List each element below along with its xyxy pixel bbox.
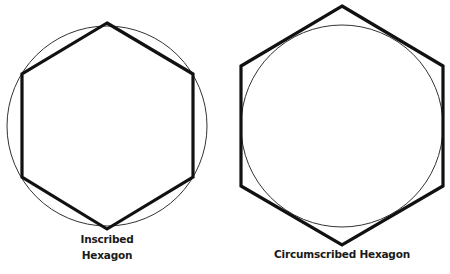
circumscribed-figure <box>241 6 443 245</box>
inscribed-label: Inscribed Hexagon <box>57 231 157 263</box>
circumscribed-label: Circumscribed Hexagon <box>262 246 422 262</box>
inscribed-circle <box>7 26 207 226</box>
circumscribed-hexagon <box>241 6 443 245</box>
circumscribed-label-line-1: Circumscribed Hexagon <box>262 246 422 262</box>
circumscribed-circle <box>241 25 443 227</box>
inscribed-label-line-1: Inscribed <box>57 231 157 247</box>
inscribed-label-line-2: Hexagon <box>57 247 157 263</box>
inscribed-hexagon <box>22 23 193 229</box>
inscribed-figure <box>7 23 207 229</box>
